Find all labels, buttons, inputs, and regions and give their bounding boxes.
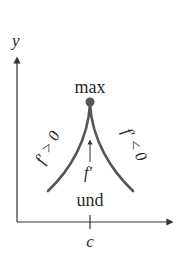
undefined-label: und: [77, 190, 104, 210]
maximum-point: [86, 98, 95, 107]
curve-right-branch: [90, 104, 133, 191]
x-tick-label: c: [86, 232, 94, 251]
cusp-maximum-diagram: y c max f′ und f′ > 0 f′ < 0: [0, 0, 184, 269]
y-axis-label: y: [10, 31, 20, 50]
left-slope-label: f′ > 0: [31, 128, 63, 167]
max-label: max: [75, 77, 106, 97]
derivative-arrow-label: f′: [84, 164, 92, 182]
right-slope-label: f′ < 0: [118, 125, 150, 164]
